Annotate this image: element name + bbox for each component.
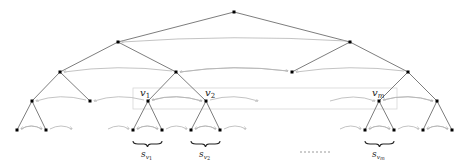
- label-vm: vm: [372, 87, 385, 100]
- leaf: [16, 129, 19, 132]
- highlight-box: [133, 88, 397, 109]
- tree-edges: [17, 12, 452, 130]
- node: [436, 100, 439, 103]
- leaf: [190, 129, 193, 132]
- leaf: [393, 129, 396, 132]
- sibling-pointers: [21, 38, 448, 129]
- tree-diagram: v1 v2 vm sv1 sv2 svm: [0, 0, 469, 165]
- leaf: [422, 129, 425, 132]
- brace-s2: [191, 141, 220, 147]
- leaf: [161, 129, 164, 132]
- leaf: [451, 129, 454, 132]
- tree-nodes: [16, 11, 454, 132]
- leaf: [45, 129, 48, 132]
- node: [59, 71, 62, 74]
- label-s-v2: sv2: [199, 149, 210, 161]
- brace-sm: [365, 141, 394, 147]
- leaf: [364, 129, 367, 132]
- node-root: [233, 11, 236, 14]
- node: [407, 71, 410, 74]
- node: [175, 71, 178, 74]
- node-v2: [205, 100, 208, 103]
- node: [89, 100, 92, 103]
- node: [117, 41, 120, 44]
- label-s-vm: svm: [372, 149, 385, 161]
- label-v1: v1: [140, 87, 150, 100]
- leaf: [132, 129, 135, 132]
- node: [349, 41, 352, 44]
- label-s-v1: sv1: [141, 149, 152, 161]
- node: [31, 100, 34, 103]
- brace-s1: [133, 141, 162, 147]
- label-v2: v2: [205, 87, 215, 100]
- leaf: [219, 129, 222, 132]
- node: [291, 71, 294, 74]
